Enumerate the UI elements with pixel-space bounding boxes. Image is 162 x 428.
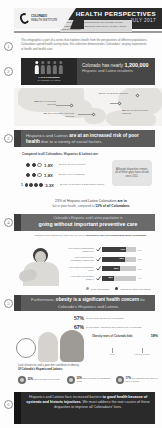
map-label-puerto-rico-text: are of Puerto Rican descent xyxy=(122,109,148,115)
bar-row: Have had a flu vaccine (past yr) 35% 44% xyxy=(68,274,158,284)
diet-item-1: 32% eat 1 serving of fruit a day xyxy=(18,376,62,384)
bar-row: Have had a colonoscopy (ever) 52% 67% xyxy=(68,264,158,274)
risk-stat-icons-3: 1 xyxy=(21,183,43,187)
map-label-central-text: are of Central American descent xyxy=(48,112,74,118)
diet-stats-row: 32% eat 1 serving of fruit a day 32% eat… xyxy=(18,376,160,384)
preventive-caption-pre: Hispanics and Latinos are less likely to… xyxy=(34,234,86,237)
preventive-caption-bold: preventive care screenings than white Co… xyxy=(86,234,146,237)
section-badge-1: 1 xyxy=(4,42,13,51)
diet-text-3: 17% are less than one hour of daily exer… xyxy=(126,377,161,384)
risk-stat-icons-1 xyxy=(26,163,42,167)
bar-compare-3: 67% xyxy=(138,268,142,270)
body-circle-outline xyxy=(16,338,36,358)
risk-stat-multiplier-3: 3.3X xyxy=(45,183,57,188)
risk-stat-row: 1.8X as likely to live in poverty xyxy=(26,160,106,170)
tick-label-hispanic: Hispanic & Latino xyxy=(134,353,150,355)
overweight-text-2: of Colorado Hispanics and Latinos are ov… xyxy=(86,324,141,329)
logo-line-2: HEALTH INSTITUTE xyxy=(31,19,57,22)
bar-value-2: 68% xyxy=(120,257,125,259)
obesity-tick-axis: White Hispanic & Latino xyxy=(98,348,156,358)
logo: COLORADO HEALTH INSTITUTE xyxy=(20,13,57,24)
dot-icon-count: 1 xyxy=(21,183,23,187)
exercise-icon xyxy=(116,376,124,384)
dot-icon-filled xyxy=(34,183,38,187)
legend-swatch-white xyxy=(86,287,89,290)
section-preventive-banner: Colorado's Hispanic and Latino populatio… xyxy=(21,214,155,231)
person-icon-3 xyxy=(47,61,51,74)
dot-icon-filled xyxy=(26,173,30,177)
risk-stat-label-1: as likely to live in poverty xyxy=(59,163,86,166)
obesity-banner-bold: obesity is a significant health concern xyxy=(56,297,139,302)
map-landmass-central xyxy=(84,108,106,124)
health-status-line2: fair or poor health, compared to 13% of … xyxy=(22,204,160,209)
chart-legend: White Coloradans Hispanic & Latino Color… xyxy=(86,287,150,290)
bar-value-3: 52% xyxy=(114,267,119,269)
risk-stat-multiplier-2: 1.8X xyxy=(44,173,56,178)
preventive-banner-line2: going without important preventive care xyxy=(25,221,151,228)
child-obesity-label: Obesity rates of Colorado kids xyxy=(92,335,158,339)
intro-paragraph: This infographic is part of a series tha… xyxy=(21,38,149,51)
legend-label-hispanic: Hispanic & Latino Coloradans xyxy=(120,288,150,290)
bar-fill-2: 68% xyxy=(102,257,125,262)
diet-item-3: 17% are less than one hour of daily exer… xyxy=(116,376,160,384)
header-titles: HEALTH PERSPECTIVES JULY 2017 xyxy=(76,10,156,23)
bar-label-3: Have had a colonoscopy (ever) xyxy=(68,266,94,272)
map-label-mexico: 73% are of Mexican descent xyxy=(26,100,56,107)
diet-value-3: 17% xyxy=(126,376,132,380)
child-obesity-block: Obesity rates of Colorado kids 18% xyxy=(92,335,158,339)
health-status-line1-bold: are in xyxy=(118,199,127,203)
risk-stat-icons-2 xyxy=(26,173,42,177)
check-icon xyxy=(96,257,101,262)
diet-caption-line2: Of Colorado's Hispanic and Latinos: xyxy=(18,368,63,371)
vegetable-icon xyxy=(67,376,75,384)
overweight-text-1: of Colorado adults are overweight xyxy=(86,315,123,320)
map-leader-line-2 xyxy=(78,114,92,115)
bar-label-4: Have had a flu vaccine (past yr) xyxy=(68,275,94,281)
check-icon xyxy=(96,247,101,252)
bar-fill-4: 35% xyxy=(102,276,114,281)
patient-illustration xyxy=(17,246,65,286)
bar-compare-4: 44% xyxy=(138,277,142,279)
logo-crescent-icon xyxy=(18,12,30,25)
bar-fill-1: 71% xyxy=(102,247,126,252)
bar-track-2: 68% xyxy=(102,257,136,262)
dot-icon-filled xyxy=(26,163,30,167)
bar-compare-1: 80% xyxy=(138,249,142,251)
population-headline-sub: Hispanic and Latino residents xyxy=(82,68,151,73)
risk-banner-post: due to a variety of social factors. xyxy=(41,139,103,144)
dot-icon-filled xyxy=(29,183,33,187)
page-title: HEALTH PERSPECTIVES xyxy=(76,10,156,17)
bar-row: Have had a mammogram (past 2 yrs) 71% 80… xyxy=(68,245,158,255)
legend-swatch-hispanic xyxy=(115,287,118,290)
diet-value-1: 32% xyxy=(28,377,34,381)
bar-track-4: 35% xyxy=(102,276,136,281)
dot-icon-empty xyxy=(37,163,41,167)
section-population: 1 in 5 Coloradans is Hispanic or Latino … xyxy=(21,58,155,85)
check-icon xyxy=(96,276,101,281)
people-icon-group xyxy=(35,61,63,74)
diet-text-2: 32% eat 1 serving of vegetables a day xyxy=(77,377,112,384)
section-badge-6: 6 xyxy=(4,400,13,409)
map-leader-line-1 xyxy=(56,105,70,106)
bar-fill-3: 52% xyxy=(102,266,120,271)
population-headline: Colorado has nearly 1,200,000 xyxy=(82,62,151,69)
section-badge-3: 3 xyxy=(4,134,13,143)
dot-icon-filled xyxy=(39,183,43,187)
section-badge-2: 2 xyxy=(4,67,13,76)
section-conclusion: Hispanics and Latinos face increased bar… xyxy=(21,392,155,424)
legend-label-white: White Coloradans xyxy=(91,288,109,290)
risk-caption: Compared to all Coloradans, Hispanics & … xyxy=(22,152,99,156)
dot-icon-filled xyxy=(32,173,36,177)
health-status-stat: 23% of Hispanic and Latino Coloradans ar… xyxy=(22,199,160,208)
bar-track-3: 52% xyxy=(102,266,136,271)
bar-label-1: Have had a mammogram (past 2 yrs) xyxy=(68,247,94,253)
obesity-banner-pre: Furthermore, xyxy=(31,297,55,302)
body-silhouette-2 xyxy=(60,330,84,362)
legend-item-white: White Coloradans xyxy=(86,287,109,290)
risk-stat-multiplier-1: 1.8X xyxy=(44,163,56,168)
person-icon-4 xyxy=(53,61,57,74)
map-label-mexico-text: are of Mexican descent xyxy=(40,100,56,106)
population-ratio-panel: 1 in 5 Coloradans is Hispanic or Latino xyxy=(21,58,77,85)
bar-label-2: Have checked their cholesterol (past 5 y… xyxy=(68,256,94,262)
diet-label-2: eat 1 serving of vegetables a day xyxy=(77,377,111,383)
